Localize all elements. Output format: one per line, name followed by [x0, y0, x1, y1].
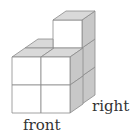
front-block-top-face-back-left [25, 39, 53, 48]
cube-stack-diagram [0, 0, 131, 138]
front-face-top-right [41, 57, 70, 85]
front-face-bottom-left [12, 85, 41, 113]
back-column-top-cube-front [53, 20, 82, 48]
front-face-bottom-right [41, 85, 70, 113]
front-face-top-left [12, 57, 41, 85]
label-front: front [23, 118, 60, 133]
label-right: right [92, 99, 129, 114]
